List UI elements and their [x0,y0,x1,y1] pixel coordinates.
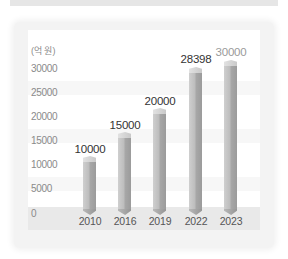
y-tick-label: 15000 [31,136,57,146]
bar-2010 [83,160,96,210]
x-tick-label: 2010 [70,215,110,227]
bar-2019 [153,112,166,210]
x-tick-label: 2023 [211,215,251,227]
x-tick-label: 2022 [176,215,216,227]
top-strip [10,0,278,6]
value-label: 20000 [135,95,185,107]
y-axis-unit-label: (억 원) [31,44,56,57]
bar-2022 [189,71,202,210]
y-tick-label: 30000 [31,64,57,74]
x-tick-label: 2016 [105,215,145,227]
bar-2023 [224,64,237,210]
y-tick-label: 10000 [31,160,57,170]
value-label: 15000 [100,119,150,131]
y-tick-label: 25000 [31,88,57,98]
x-tick-label: 2019 [140,215,180,227]
bar-2016 [118,136,131,210]
y-tick-label: 0 [31,209,36,219]
y-tick-label: 5000 [31,184,52,194]
value-label: 10000 [65,143,115,155]
value-label: 30000 [206,46,256,58]
y-tick-label: 20000 [31,112,57,122]
